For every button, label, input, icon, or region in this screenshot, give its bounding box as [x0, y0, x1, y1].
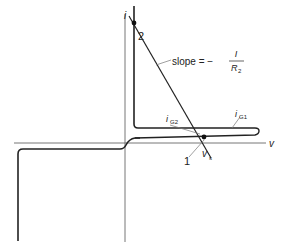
- ig1-label: i: [235, 109, 238, 119]
- ig1-subscript: G1: [239, 114, 248, 120]
- point-1-label: 1: [184, 155, 190, 167]
- reverse-branch-curve: [18, 138, 140, 241]
- vs-subscript: s: [209, 155, 212, 161]
- point-2-label: 2: [138, 30, 144, 42]
- slope-leader: [156, 60, 171, 65]
- operating-point-2: [132, 21, 137, 26]
- vs-label: v: [202, 148, 208, 159]
- operating-point-1: [202, 135, 207, 140]
- slope-numerator: I: [235, 49, 238, 59]
- slope-denominator-sub: 2: [238, 68, 242, 74]
- i-axis-label: i: [124, 10, 127, 21]
- v-axis-label: v: [269, 138, 275, 149]
- ig2-curve: [134, 6, 206, 128]
- slope-denominator: R: [231, 63, 238, 73]
- ig2-subscript: G2: [170, 119, 179, 125]
- slope-label: slope = −: [172, 56, 213, 67]
- ig2-leader: [170, 125, 200, 134]
- ig2-label: i: [166, 114, 169, 124]
- thyristor-iv-diagram: i v 2 1 v s slope = − I R 2 i G1 i G2: [0, 0, 286, 249]
